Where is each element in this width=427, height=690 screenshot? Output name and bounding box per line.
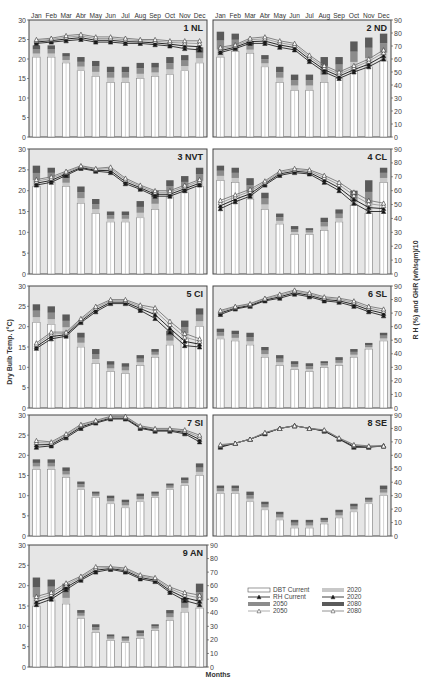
bar-dbt-2020 bbox=[62, 60, 69, 63]
bar-dbt-2080 bbox=[62, 314, 69, 320]
bar-dbt-2080 bbox=[137, 63, 144, 68]
plot-area bbox=[29, 545, 207, 667]
bar-dbt-2050 bbox=[261, 199, 268, 205]
bar-dbt-2080 bbox=[122, 363, 129, 367]
bar-dbt-2020 bbox=[261, 354, 268, 357]
y-tick-right: 80 bbox=[394, 30, 402, 37]
bar-dbt-2050 bbox=[62, 321, 69, 327]
y-tick-left: 5 bbox=[22, 114, 26, 121]
bar-dbt-2080 bbox=[166, 484, 173, 486]
y-tick-right: 40 bbox=[394, 82, 402, 89]
y-tick-left: 0 bbox=[22, 664, 26, 671]
bar-dbt-2020 bbox=[291, 367, 298, 369]
bar-dbt-2050 bbox=[350, 352, 357, 355]
bar-dbt-2020 bbox=[335, 218, 342, 222]
bar-dbt-2050 bbox=[232, 173, 239, 178]
bar-dbt-2020 bbox=[196, 58, 203, 63]
y-tick-right: 60 bbox=[394, 452, 402, 459]
bar-dbt-2020 bbox=[137, 213, 144, 218]
panel-label: 5 CI bbox=[186, 289, 203, 299]
y-tick-left: 30 bbox=[18, 17, 26, 24]
legend-label: 2080 bbox=[347, 600, 362, 607]
bar-dbt-2080 bbox=[380, 168, 387, 173]
y-tick-right: 50 bbox=[394, 201, 402, 208]
y-tick-right: 40 bbox=[394, 479, 402, 486]
y-tick-right: 80 bbox=[394, 425, 402, 432]
bar-dbt-2080 bbox=[261, 347, 268, 351]
bar-dbt-2080 bbox=[335, 510, 342, 513]
bar-dbt-2020 bbox=[151, 496, 158, 498]
legend-label: 2020 bbox=[347, 586, 362, 593]
bar-dbt-2080 bbox=[77, 57, 84, 62]
bar-dbt-2020 bbox=[151, 355, 158, 357]
bar-dbt-2050 bbox=[122, 215, 129, 219]
y-tick-right: 70 bbox=[394, 173, 402, 180]
y-tick-right: 10 bbox=[210, 650, 218, 657]
panel-7-si: 7 SI051015202530 bbox=[18, 412, 207, 540]
bar-dbt-2020 bbox=[217, 336, 224, 339]
legend-label: 2080 bbox=[347, 607, 362, 614]
month-label: Mar bbox=[60, 12, 72, 19]
plot-area bbox=[213, 415, 391, 536]
y-tick-right: 70 bbox=[210, 569, 218, 576]
bar-dbt-2080 bbox=[107, 496, 114, 499]
panels-group: 1 NL051015202530JanFebMarAbrMayJunJulAug… bbox=[18, 12, 402, 671]
bar-dbt-2050 bbox=[166, 336, 173, 341]
bar-dbt-2050 bbox=[335, 214, 342, 218]
bar-dbt-2050 bbox=[380, 489, 387, 493]
bar-dbt-2050 bbox=[48, 313, 55, 319]
y-tick-right: 30 bbox=[210, 623, 218, 630]
plot-area bbox=[213, 20, 391, 137]
y-tick-right: 40 bbox=[210, 609, 218, 616]
bar-dbt-2020 bbox=[365, 347, 372, 349]
bar-dbt-2020 bbox=[291, 86, 298, 91]
bar-dbt-2050 bbox=[33, 463, 40, 467]
bar-dbt-2050 bbox=[306, 80, 313, 85]
bar-dbt-2020 bbox=[92, 359, 99, 363]
month-label: Sep bbox=[149, 12, 161, 20]
bar-dbt-2080 bbox=[166, 610, 173, 614]
bar-dbt-2080 bbox=[350, 41, 357, 51]
y-tick-left: 25 bbox=[18, 36, 26, 43]
bar-dbt-2050 bbox=[196, 468, 203, 472]
bar-dbt-2020 bbox=[276, 517, 283, 519]
bar-dbt-2020 bbox=[276, 362, 283, 365]
bar-dbt-2050 bbox=[151, 494, 158, 496]
y-tick-right: 40 bbox=[394, 215, 402, 222]
bar-dbt-2080 bbox=[291, 361, 298, 364]
legend-swatch bbox=[322, 602, 344, 606]
bar-dbt-2050 bbox=[166, 63, 173, 69]
bar-dbt-2080 bbox=[196, 168, 203, 175]
bar-dbt-2020 bbox=[261, 204, 268, 209]
bar-dbt-2050 bbox=[48, 49, 55, 53]
panel-2-nd: 2 ND0102030405060708090JanFebMarAbrMayJu… bbox=[213, 12, 402, 141]
bar-dbt-2080 bbox=[246, 492, 253, 496]
bar-dbt-2080 bbox=[107, 634, 114, 636]
month-label: Jun bbox=[289, 12, 300, 19]
bar-dbt-2080 bbox=[62, 467, 69, 471]
panel-label: 4 CL bbox=[367, 152, 387, 162]
bar-dbt-2020 bbox=[306, 233, 313, 235]
bar-dbt-2050 bbox=[151, 626, 158, 628]
legend-item: 2020 bbox=[322, 586, 362, 593]
y-tick-left: 5 bbox=[22, 384, 26, 391]
bar-dbt-2050 bbox=[246, 337, 253, 341]
bar-dbt-2050 bbox=[166, 486, 173, 488]
bar-dbt-2020 bbox=[107, 219, 114, 222]
bar-dbt-2080 bbox=[166, 180, 173, 186]
y-tick-right: 70 bbox=[394, 438, 402, 445]
bar-dbt-2080 bbox=[276, 355, 283, 359]
bar-dbt-2050 bbox=[246, 495, 253, 499]
bar-dbt-2080 bbox=[151, 349, 158, 352]
month-label: Jun bbox=[105, 12, 116, 19]
month-label: Oct bbox=[349, 12, 359, 19]
y-tick-left: 15 bbox=[18, 603, 26, 610]
month-label: Abr bbox=[76, 12, 87, 19]
y-tick-right: 90 bbox=[394, 146, 402, 153]
bar-dbt-2020 bbox=[246, 341, 253, 345]
y-tick-right: 20 bbox=[210, 636, 218, 643]
bar-dbt-2080 bbox=[77, 333, 84, 338]
bar-dbt-2050 bbox=[306, 366, 313, 369]
bar-dbt-2020 bbox=[321, 366, 328, 368]
legend-item: 2050 bbox=[248, 607, 288, 614]
